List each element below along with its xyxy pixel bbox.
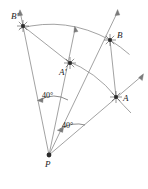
ray-p-b-prime xyxy=(20,12,49,155)
point-label-b: B xyxy=(117,31,123,40)
segment-b-prime-a-prime xyxy=(23,26,70,63)
point-label-a-prime: A' xyxy=(59,68,66,77)
angle-label-apa-prime: 40° xyxy=(62,122,73,130)
point-label-p: P xyxy=(45,160,51,169)
point-marker-p xyxy=(47,153,52,158)
point-label-b-prime: B' xyxy=(11,12,18,21)
segment-b-a xyxy=(110,40,116,97)
point-label-a: A xyxy=(123,94,129,103)
ray-group xyxy=(18,10,144,156)
point-group xyxy=(17,20,122,157)
arrow-head-ray-p-a xyxy=(139,74,144,81)
point-marker-b-prime xyxy=(17,20,29,32)
arrow-head-ray-p-b xyxy=(115,10,120,16)
point-marker-b xyxy=(104,34,116,46)
point-marker-a xyxy=(110,91,122,103)
ray-p-b xyxy=(49,12,118,155)
arc-a-to-a-prime xyxy=(67,61,132,114)
geometry-figure: B' A' B A P 40° 40° xyxy=(0,0,148,189)
angle-label-bpb-prime: 40° xyxy=(42,92,53,100)
